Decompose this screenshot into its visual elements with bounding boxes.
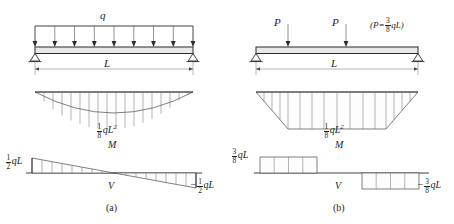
panel-caption-a: (a) — [106, 203, 117, 213]
support-right-pin — [187, 54, 200, 62]
distributed-load-q — [33, 26, 196, 47]
moment-peak-fraction: 1 8 — [97, 123, 103, 140]
moment-axis-label: M — [335, 140, 343, 150]
span-label-L: L — [104, 58, 110, 69]
shear-diagram — [254, 157, 429, 189]
span-dimension-L — [35, 62, 193, 75]
load-symbol-q: q — [100, 10, 106, 21]
support-left-pin — [29, 54, 42, 62]
point-load-label-1: P — [274, 17, 281, 28]
shear-left-fraction: 1 2 — [6, 154, 12, 171]
moment-peak-fraction: 1 8 — [324, 123, 330, 140]
support-left-pin — [250, 54, 263, 62]
shear-axis-label: V — [335, 181, 341, 191]
shear-left-fraction: 3 8 — [232, 148, 238, 165]
shear-axis-label: V — [108, 181, 114, 191]
beam-member — [35, 47, 193, 54]
moment-peak-label: 1 8 qL2 — [323, 123, 344, 140]
shear-left-value: 3 8 qL — [231, 148, 248, 165]
beam-case-b: P P (P= 3 8 qL) L 1 8 qL2 M 3 8 qL V − 3 — [227, 0, 454, 224]
shear-left-value: 1 2 qL — [5, 154, 22, 171]
moment-axis-label: M — [108, 140, 116, 150]
shear-right-value: − 3 8 qL — [417, 178, 441, 195]
beam-member — [256, 47, 418, 54]
panel-caption-b: (b) — [333, 203, 345, 213]
support-right-pin — [412, 54, 425, 62]
load-definition-note: (P= 3 8 qL) — [370, 17, 404, 34]
load-note-fraction: 3 8 — [385, 17, 391, 34]
figure-canvas: q L 1 8 qL2 M 1 2 qL V − 1 2 qL (a) — [0, 0, 454, 224]
beam-case-a: q L 1 8 qL2 M 1 2 qL V − 1 2 qL (a) — [0, 0, 227, 224]
span-label-L: L — [331, 58, 337, 69]
point-load-label-2: P — [332, 17, 339, 28]
moment-peak-label: 1 8 qL2 — [96, 123, 117, 140]
shear-right-value: − 1 2 qL — [190, 178, 214, 195]
load-arrow-group — [33, 26, 196, 47]
